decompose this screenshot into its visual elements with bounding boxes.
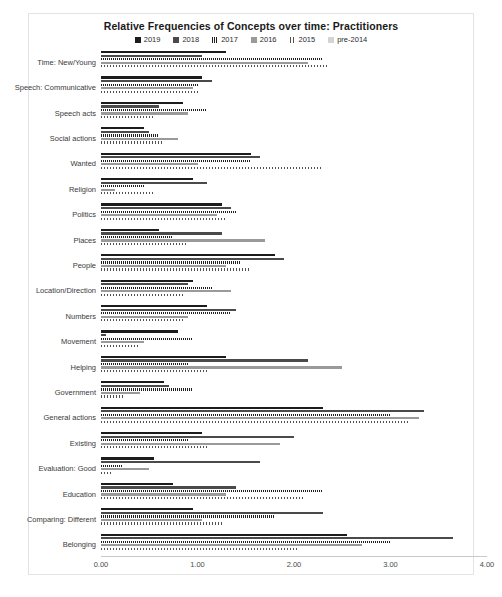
bar-2019 (101, 254, 275, 256)
legend-item-2015[interactable]: 2015 (290, 35, 316, 44)
bar-2018 (101, 461, 260, 463)
bar-group (101, 405, 487, 430)
bar-2018 (101, 232, 222, 234)
y-axis-label: Places (73, 235, 96, 244)
bar-2019 (101, 127, 144, 129)
bar-group (101, 430, 487, 455)
bar-2015 (101, 294, 183, 296)
bar-2018 (101, 105, 159, 107)
bar-group (101, 455, 487, 480)
y-axis-label: Numbers (66, 311, 96, 320)
bar-2019 (101, 280, 193, 282)
bar-2018 (101, 207, 231, 209)
bar-2017 (101, 185, 144, 187)
bar-2016 (101, 544, 362, 546)
x-axis-tick-label: 3.00 (383, 560, 398, 569)
bar-2017 (101, 58, 323, 60)
bar-2016 (101, 468, 149, 470)
y-axis-label: Comparing: Different (27, 514, 96, 523)
chart-plot-area (101, 49, 487, 557)
bar-group (101, 74, 487, 99)
chart-legend: 20192018201720162015pre-2014 (0, 35, 502, 44)
bar-2017 (101, 439, 188, 441)
bar-2015 (101, 421, 410, 423)
bar-2016 (101, 62, 308, 64)
bar-2015 (101, 497, 304, 499)
legend-swatch-icon (212, 37, 218, 43)
bar-2015 (101, 116, 154, 118)
legend-item-2016[interactable]: 2016 (251, 35, 277, 44)
bar-2018 (101, 334, 106, 336)
bar-group (101, 506, 487, 531)
bar-2018 (101, 385, 169, 387)
bar-2019 (101, 432, 202, 434)
bar-2015 (101, 65, 328, 67)
x-axis-tick-label: 0.00 (94, 560, 109, 569)
bar-2019 (101, 51, 226, 53)
bar-2015 (101, 446, 207, 448)
bar-2019 (101, 381, 164, 383)
bar-2018 (101, 309, 236, 311)
bar-group (101, 303, 487, 328)
bar-2016 (101, 417, 419, 419)
bar-2018 (101, 182, 207, 184)
bar-group (101, 151, 487, 176)
legend-swatch-icon (290, 37, 296, 43)
bar-group (101, 201, 487, 226)
bar-2016 (101, 265, 226, 267)
bar-group (101, 532, 487, 557)
bar-2018 (101, 537, 453, 539)
y-axis-label: People (73, 260, 96, 269)
legend-item-2017[interactable]: 2017 (212, 35, 238, 44)
bar-2018 (101, 359, 308, 361)
bar-2017 (101, 465, 122, 467)
bar-2016 (101, 189, 115, 191)
bar-2017 (101, 338, 193, 340)
legend-item-2018[interactable]: 2018 (173, 35, 199, 44)
legend-label: 2017 (221, 35, 238, 44)
bar-group (101, 354, 487, 379)
y-axis-label: Politics (72, 210, 96, 219)
bar-2019 (101, 153, 251, 155)
y-axis-label: Wanted (70, 159, 96, 168)
legend-item-pre-2014[interactable]: pre-2014 (328, 35, 367, 44)
x-axis-tick-label: 2.00 (287, 560, 302, 569)
bar-2015 (101, 192, 154, 194)
bar-2016 (101, 87, 193, 89)
legend-item-2019[interactable]: 2019 (135, 35, 161, 44)
bar-group (101, 49, 487, 74)
bar-2018 (101, 436, 294, 438)
bar-group (101, 176, 487, 201)
bar-2017 (101, 312, 231, 314)
bar-2017 (101, 515, 275, 517)
legend-swatch-icon (173, 37, 179, 43)
bar-group (101, 379, 487, 404)
y-axis-category-labels: Time: New/YoungSpeech: CommunicativeSpee… (0, 49, 98, 557)
bar-2019 (101, 457, 154, 459)
legend-swatch-icon (135, 37, 141, 43)
bar-2019 (101, 178, 193, 180)
bar-2019 (101, 76, 202, 78)
bar-2016 (101, 519, 202, 521)
bar-2015 (101, 522, 222, 524)
bar-2017 (101, 134, 159, 136)
bar-2017 (101, 84, 198, 86)
bar-2015 (101, 218, 226, 220)
bar-2015 (101, 319, 183, 321)
bar-2015 (101, 370, 207, 372)
legend-label: 2019 (144, 35, 161, 44)
bar-2015 (101, 167, 323, 169)
y-axis-label: Speech acts (55, 108, 96, 117)
bar-2016 (101, 163, 198, 165)
bar-2017 (101, 388, 193, 390)
bar-2018 (101, 131, 149, 133)
legend-swatch-icon (251, 37, 257, 43)
bar-2018 (101, 55, 202, 57)
bar-2015 (101, 91, 198, 93)
legend-label: 2018 (182, 35, 199, 44)
bar-2016 (101, 366, 342, 368)
bar-2019 (101, 534, 347, 536)
bar-2018 (101, 410, 424, 412)
bar-2015 (101, 395, 125, 397)
bar-group (101, 125, 487, 150)
